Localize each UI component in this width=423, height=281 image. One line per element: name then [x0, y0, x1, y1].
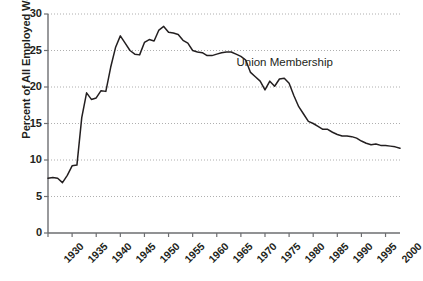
data-line-union-membership	[48, 26, 400, 182]
gridlines	[48, 14, 400, 197]
